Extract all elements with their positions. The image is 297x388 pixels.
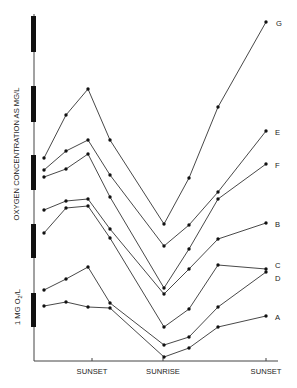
data-point <box>187 346 190 349</box>
data-point <box>64 167 67 170</box>
series-B: B <box>42 197 280 295</box>
data-point <box>264 162 267 165</box>
data-point <box>64 277 67 280</box>
data-point <box>86 138 89 141</box>
series-label: B <box>275 220 280 229</box>
x-tick-label: SUNSET <box>77 367 108 376</box>
data-point <box>216 197 219 200</box>
scale-label: 1 MG O2/L <box>13 289 23 325</box>
data-point <box>42 231 45 234</box>
data-point <box>216 263 219 266</box>
series-line <box>44 267 266 345</box>
data-point <box>86 152 89 155</box>
scale-bar <box>31 16 36 52</box>
data-point <box>216 325 219 328</box>
oxygen-chart: SUNSETSUNRISESUNSET OXYGEN CONCENTRATION… <box>0 0 297 388</box>
data-point <box>108 195 111 198</box>
data-point <box>108 173 111 176</box>
series-line <box>44 199 266 294</box>
data-point <box>108 138 111 141</box>
scale-bar <box>31 224 36 258</box>
data-point <box>162 343 165 346</box>
data-point <box>264 270 267 273</box>
y-axis-label: OXYGEN CONCENTRATION AS MG/L <box>12 88 21 221</box>
data-point <box>86 265 89 268</box>
x-tick-label: SUNRISE <box>146 367 180 376</box>
data-point <box>264 267 267 270</box>
series-label: E <box>275 128 280 137</box>
series-A: A <box>42 300 281 358</box>
series-label: G <box>276 19 282 28</box>
data-point <box>42 175 45 178</box>
data-point <box>187 267 190 270</box>
series-label: A <box>275 313 281 322</box>
data-point <box>162 292 165 295</box>
series-label: F <box>275 161 280 170</box>
series-line <box>44 154 266 288</box>
data-point <box>264 314 267 317</box>
data-point <box>264 20 267 23</box>
data-point <box>64 149 67 152</box>
series-line <box>44 302 266 357</box>
data-point <box>187 307 190 310</box>
data-point <box>216 190 219 193</box>
scale-bar <box>31 293 36 327</box>
data-point <box>42 288 45 291</box>
data-point <box>42 168 45 171</box>
series-group: GEFBCDA <box>42 19 282 359</box>
x-tick-label: SUNSET <box>251 367 282 376</box>
data-point <box>64 199 67 202</box>
data-point <box>187 335 190 338</box>
data-point <box>187 247 190 250</box>
series-C: C <box>42 204 281 328</box>
series-D: D <box>42 265 281 346</box>
data-point <box>216 237 219 240</box>
data-point <box>162 286 165 289</box>
data-point <box>162 244 165 247</box>
axes: SUNSETSUNRISESUNSET <box>31 14 282 376</box>
data-point <box>64 300 67 303</box>
data-point <box>86 197 89 200</box>
series-G: G <box>42 19 282 226</box>
data-point <box>86 87 89 90</box>
data-point <box>216 105 219 108</box>
data-point <box>86 305 89 308</box>
data-point <box>64 206 67 209</box>
data-point <box>264 221 267 224</box>
data-point <box>42 156 45 159</box>
series-label: C <box>275 261 281 270</box>
data-point <box>42 304 45 307</box>
data-point <box>264 129 267 132</box>
data-point <box>108 236 111 239</box>
data-point <box>42 208 45 211</box>
scale-bar <box>31 155 36 190</box>
data-point <box>108 227 111 230</box>
data-point <box>162 325 165 328</box>
series-line <box>44 22 266 224</box>
data-point <box>187 223 190 226</box>
data-point <box>162 355 165 358</box>
data-point <box>187 176 190 179</box>
data-point <box>162 222 165 225</box>
series-line <box>44 206 266 327</box>
series-label: D <box>275 274 281 283</box>
scale-bar <box>31 86 36 122</box>
data-point <box>86 204 89 207</box>
data-point <box>216 305 219 308</box>
data-point <box>108 306 111 309</box>
data-point <box>108 301 111 304</box>
data-point <box>64 113 67 116</box>
series-F: F <box>42 152 280 289</box>
